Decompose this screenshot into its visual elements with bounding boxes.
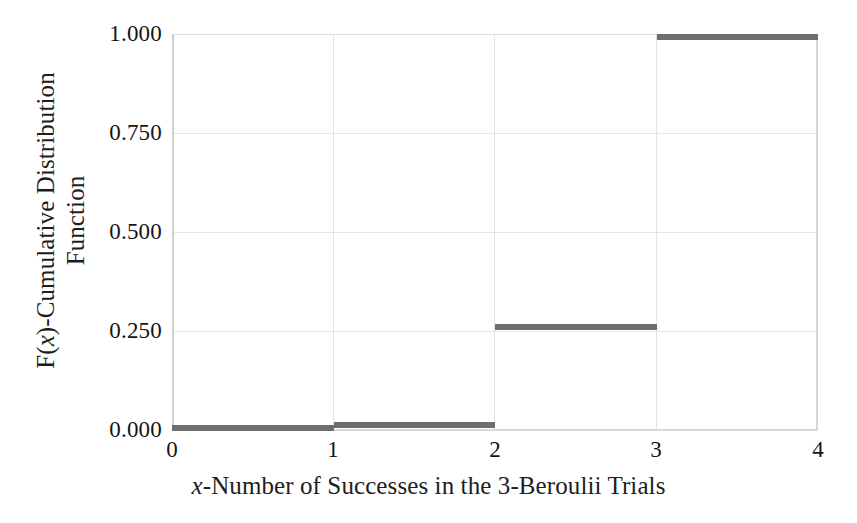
x-tick-label-1: 1 [303,437,363,463]
x-axis-title: x-Number of Successes in the 3-Beroulii … [0,472,857,500]
x-axis-title-rest: -Number of Successes in the 3-Beroulii T… [203,472,666,499]
x-tick-label-3: 3 [626,437,686,463]
cdf-step-chart: F(x)-Cumulative Distribution Function 1.… [0,0,857,523]
x-axis-title-x-variable: x [192,472,203,499]
x-tick-label-0: 0 [142,437,202,463]
x-tick-label-4: 4 [788,437,848,463]
x-axis-tick-labels: 0 1 2 3 4 [0,0,857,523]
x-tick-label-2: 2 [465,437,525,463]
